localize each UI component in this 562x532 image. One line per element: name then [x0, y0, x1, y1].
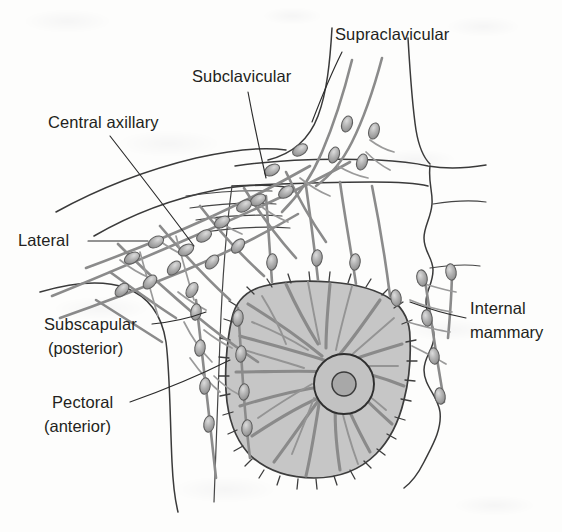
leader-subclavicular	[248, 92, 266, 178]
vessel-im-branch-1	[410, 300, 452, 312]
nipple	[332, 372, 356, 396]
lymphatic-drainage-figure: Supraclavicular Subclavicular Central ax…	[0, 0, 562, 532]
leader-pectoral	[130, 360, 230, 402]
vessel-supraclav-branch	[370, 140, 394, 152]
label-internal-mammary-line2: mammary	[470, 323, 544, 341]
label-pectoral: Pectoral	[52, 393, 113, 411]
vessel-descend-4	[372, 186, 390, 296]
label-subclavicular: Subclavicular	[192, 67, 292, 85]
label-supraclavicular: Supraclavicular	[335, 25, 450, 43]
label-central-axillary: Central axillary	[48, 113, 159, 131]
label-subscapular-qualifier: (posterior)	[48, 339, 123, 357]
label-internal-mammary: Internal	[470, 299, 526, 317]
label-lateral: Lateral	[18, 231, 69, 249]
neck-right-contour	[408, 38, 430, 164]
leader-central-axillary	[110, 136, 194, 246]
rib-mark-1	[433, 201, 486, 204]
label-subscapular: Subscapular	[44, 315, 137, 333]
diagram-canvas: Supraclavicular Subclavicular Central ax…	[0, 0, 562, 532]
neck-left-contour	[268, 28, 332, 160]
label-pectoral-qualifier: (anterior)	[44, 417, 111, 435]
